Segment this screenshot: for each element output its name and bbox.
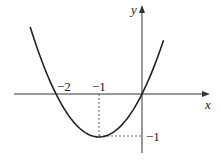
- tick-label-neg1-y: −1: [146, 130, 160, 143]
- y-axis-arrow-icon: [139, 5, 145, 13]
- parabola-chart: [0, 0, 221, 161]
- tick-label-neg1-x: −1: [92, 80, 106, 93]
- tick-label-neg2: −2: [57, 80, 71, 93]
- x-axis-label: x: [205, 98, 211, 111]
- y-axis-label: y: [131, 3, 137, 16]
